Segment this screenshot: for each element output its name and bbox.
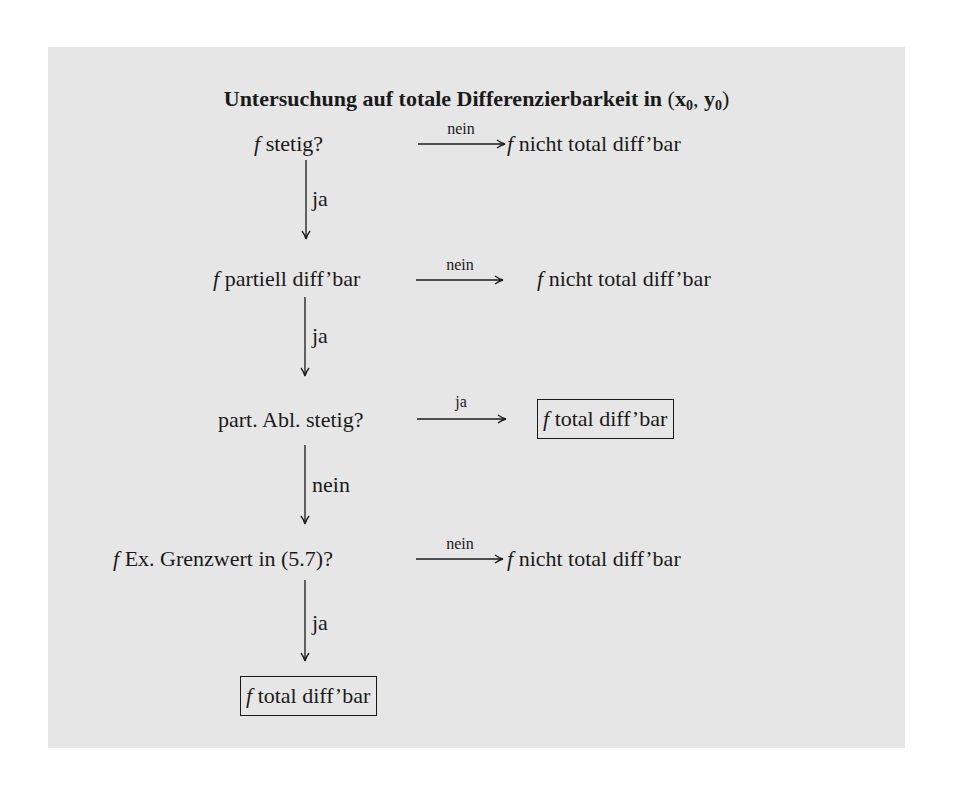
result-text: total diff’bar [252,683,370,708]
down-arrow-icon [298,445,312,525]
down-arrow-label-1: ja [312,186,328,212]
y-var: y [704,86,715,111]
question-limit-exists: f Ex. Grenzwert in (5.7)? [113,545,333,573]
y-subscript: 0 [715,98,722,113]
question-text: partiell diff’bar [219,266,360,291]
arrow-label-row1: nein [418,120,504,138]
diagram-title: Untersuchung auf totale Differenzierbark… [0,85,953,113]
x-var: x [675,86,686,111]
result-totally-differentiable-boxed: f total diff’bar [537,399,674,439]
right-arrow-icon [416,273,504,287]
arrow-label-row2: nein [416,256,504,274]
arrow-label-row3: ja [417,393,505,411]
paren-open: ( [668,86,675,111]
question-text: stetig? [260,131,323,156]
question-partial-derivatives-continuous: part. Abl. stetig? [218,406,363,434]
right-arrow-icon [416,552,504,566]
down-arrow-label-4: ja [312,610,328,636]
right-arrow-icon [417,412,507,426]
final-result-totally-differentiable-boxed: f total diff’bar [240,676,377,716]
question-text: Ex. Grenzwert in (5.7)? [119,546,333,571]
down-arrow-icon [298,297,312,377]
down-arrow-icon [299,160,313,240]
arrow-label-row4: nein [416,535,504,553]
title-text: Untersuchung auf totale Differenzierbark… [224,86,662,111]
result-not-differentiable-1: f nicht total diff’bar [507,130,681,158]
result-text: total diff’bar [549,406,667,431]
question-text: part. Abl. stetig? [218,407,363,432]
result-not-differentiable-3: f nicht total diff’bar [507,545,681,573]
down-arrow-icon [298,580,312,662]
down-arrow-label-2: ja [312,323,328,349]
result-not-differentiable-2: f nicht total diff’bar [537,265,711,293]
x-subscript: 0 [686,98,693,113]
result-text: nicht total diff’bar [513,131,681,156]
result-text: nicht total diff’bar [543,266,711,291]
question-continuous: f stetig? [254,130,323,158]
paren-close: ) [722,86,729,111]
result-text: nicht total diff’bar [513,546,681,571]
title-point: (x0, y0) [668,86,730,111]
right-arrow-icon [418,137,506,151]
comma: , [693,86,704,111]
question-partially-differentiable: f partiell diff’bar [213,265,360,293]
down-arrow-label-3: nein [312,472,350,498]
